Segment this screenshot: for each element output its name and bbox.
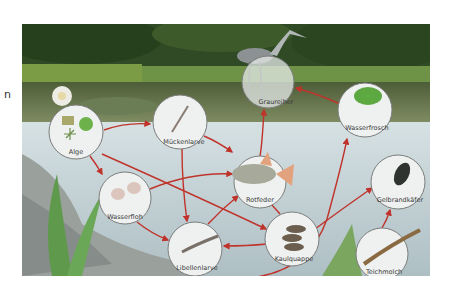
node-label: Libellenlarve xyxy=(176,264,218,272)
node-label: Teichmolch xyxy=(365,268,402,276)
stray-text: n xyxy=(4,88,11,101)
node-label: Rotfeder xyxy=(246,196,274,204)
node-wasserfloh: Wasserfloh xyxy=(99,172,151,224)
node-label: Graureiher xyxy=(259,98,294,106)
node-wasserfrosch: Wasserfrosch xyxy=(338,83,392,137)
node-kaulquappe: Kaulquappe xyxy=(265,212,319,266)
node-label: Wasserfrosch xyxy=(345,124,388,132)
node-label: Wasserfloh xyxy=(107,213,143,221)
food-web-diagram: Alge Wasserfloh Mückenlarve Rotfeder Gra… xyxy=(22,24,430,276)
node-graureiher: Graureiher xyxy=(242,56,294,108)
node-label: Gelbrandkäfer xyxy=(377,196,424,204)
node-mueckenlarve: Mückenlarve xyxy=(153,95,207,149)
node-gelbrandkaefer: Gelbrandkäfer xyxy=(371,155,425,209)
node-label: Mückenlarve xyxy=(163,138,204,146)
pond-scene: Alge Wasserfloh Mückenlarve Rotfeder Gra… xyxy=(22,24,430,276)
node-alge: Alge xyxy=(49,105,103,159)
node-label: Alge xyxy=(69,148,83,156)
node-libellenlarve: Libellenlarve xyxy=(168,222,222,276)
node-label: Kaulquappe xyxy=(275,255,314,263)
